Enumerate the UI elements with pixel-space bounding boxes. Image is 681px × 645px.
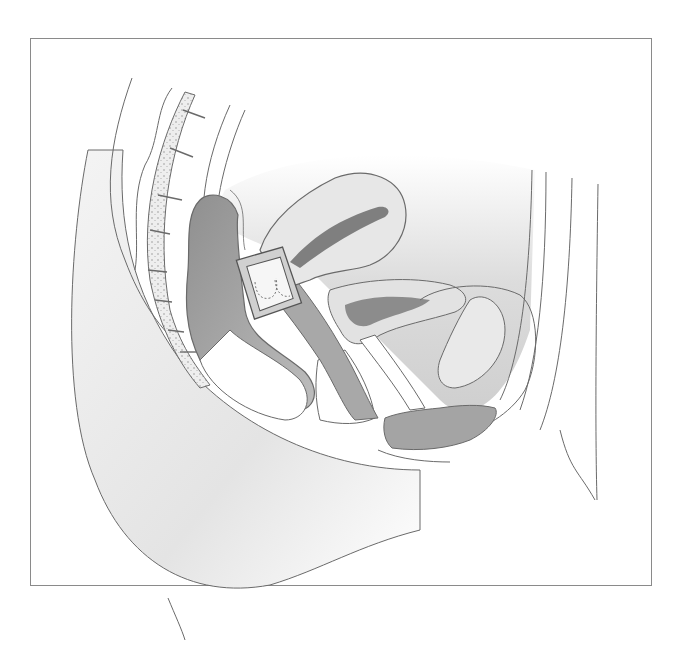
- vulva: [378, 405, 496, 462]
- pelvis-cross-section-illustration: [0, 0, 681, 645]
